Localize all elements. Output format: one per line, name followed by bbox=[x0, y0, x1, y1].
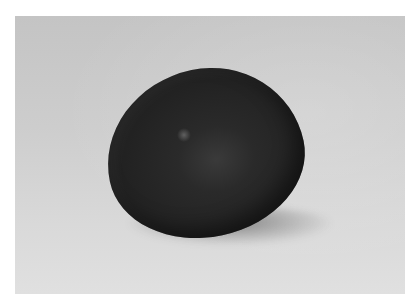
egg-highlight bbox=[177, 128, 191, 142]
photo bbox=[15, 16, 405, 294]
